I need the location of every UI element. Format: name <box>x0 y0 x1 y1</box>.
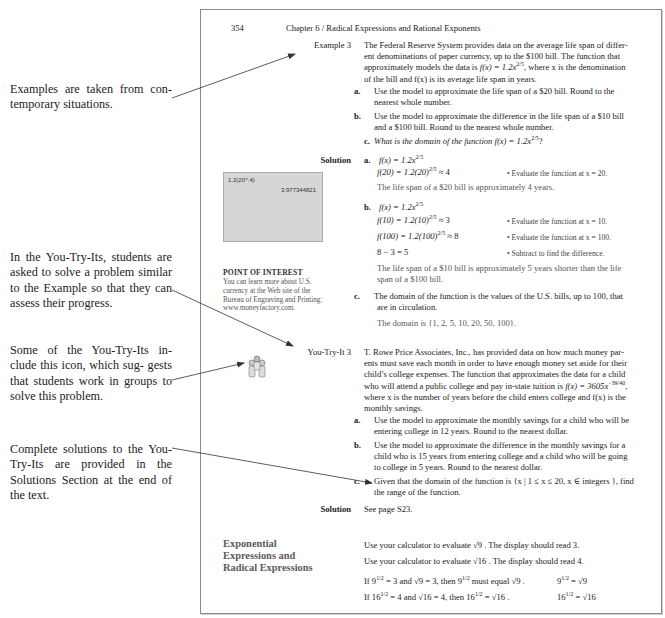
arrow-to-solution <box>172 448 372 483</box>
callout-arrows <box>0 0 665 618</box>
arrow-to-you-try-it <box>172 290 293 346</box>
arrow-to-group-icon <box>172 363 244 380</box>
arrow-to-example <box>172 54 295 98</box>
